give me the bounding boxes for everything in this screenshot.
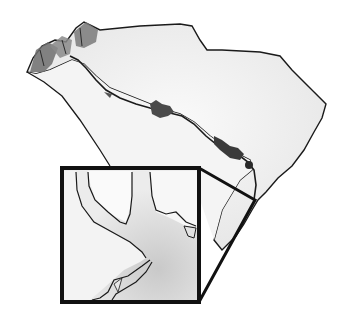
inset-zoom-box [62, 168, 199, 302]
map-canvas [0, 0, 347, 333]
south-carolina-map [0, 0, 347, 333]
